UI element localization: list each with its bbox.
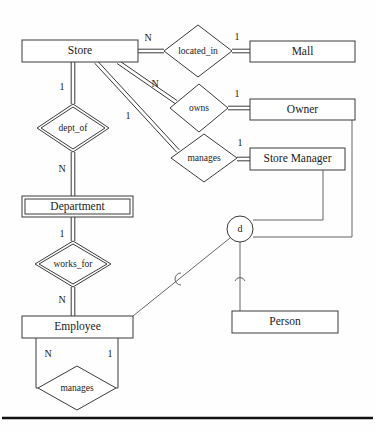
cardinality-employee-manages-n: N (44, 348, 51, 359)
cardinality-department-works_for: 1 (60, 228, 65, 239)
subset-arc-employee (175, 273, 181, 285)
link-works_for-employee (71, 287, 75, 316)
entity-store[interactable]: Store (22, 40, 138, 62)
specialization-disjoint-circle[interactable]: d (227, 216, 253, 242)
link-dept_of-department (71, 152, 75, 196)
link-disjoint-employee (133, 238, 230, 316)
entity-employee[interactable]: Employee (22, 316, 133, 338)
link-department-works_for (71, 217, 75, 241)
relationship-label-dept_of: dept_of (58, 123, 88, 133)
relationship-label-owns: owns (189, 103, 209, 113)
cardinality-dept_of-department: N (58, 163, 65, 174)
link-manages-store_manager (237, 157, 250, 161)
disjoint-label: d (238, 223, 243, 234)
entity-label-employee: Employee (54, 320, 101, 333)
relationship-manages_employee[interactable]: manages (38, 366, 116, 410)
er-diagram-canvas: StoreMallOwnerStore ManagerDepartmentEmp… (0, 0, 375, 432)
link-store-manages (95, 61, 180, 152)
entity-person[interactable]: Person (232, 311, 338, 333)
entity-mall[interactable]: Mall (250, 41, 355, 62)
entity-label-owner: Owner (287, 103, 318, 115)
entity-label-store: Store (68, 44, 92, 56)
relationship-works_for[interactable]: works_for (35, 241, 111, 287)
entity-department[interactable]: Department (22, 196, 133, 217)
relationship-located_in[interactable]: located_in (164, 25, 232, 77)
entity-label-mall: Mall (292, 45, 314, 57)
cardinality-store-dept_of: 1 (60, 81, 65, 92)
entity-label-person: Person (269, 315, 301, 327)
cardinality-works_for-employee: N (58, 294, 65, 305)
cardinality-located_in-mall: 1 (235, 31, 240, 42)
relationship-dept_of[interactable]: dept_of (37, 104, 109, 152)
relationship-owns[interactable]: owns (170, 84, 228, 132)
cardinality-store-manages: 1 (126, 110, 131, 121)
cardinality-manages-store_manager: 1 (238, 137, 243, 148)
entity-owner[interactable]: Owner (250, 99, 355, 120)
link-located_in-mall (232, 49, 250, 53)
er-diagram-svg: StoreMallOwnerStore ManagerDepartmentEmp… (0, 0, 375, 432)
relationship-label-works_for: works_for (53, 259, 93, 269)
cardinality-employee-manages-1: 1 (108, 348, 113, 359)
relationship-label-located_in: located_in (178, 46, 218, 56)
cardinality-store-owns: N (151, 78, 158, 89)
cardinality-owns-owner: 1 (235, 88, 240, 99)
relationship-label-manages_store: manages (187, 153, 221, 163)
link-store-dept_of (71, 62, 75, 104)
entity-label-store_manager: Store Manager (263, 152, 331, 165)
entity-store_manager[interactable]: Store Manager (250, 148, 345, 170)
entity-label-department: Department (50, 200, 105, 213)
relationship-manages_store[interactable]: manages (171, 134, 237, 182)
link-store-located_in (138, 49, 164, 53)
relationship-label-manages_employee: manages (60, 383, 94, 393)
cardinality-store-located_in: N (144, 32, 151, 43)
link-owns-owner (228, 106, 250, 110)
